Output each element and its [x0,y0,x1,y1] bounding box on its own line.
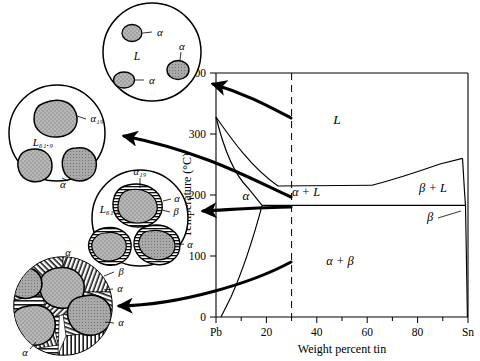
region-label-alpha: α [243,188,251,203]
m3-alpha-core-1 [118,189,157,223]
region-label-beta-L: β + L [418,181,447,195]
liquidus-sn-side [372,158,463,185]
x-tick-label-sn: Sn [462,326,474,338]
y-tick-label-100: 100 [189,250,207,262]
m4-alpha-label-2: α [118,317,124,328]
m3-matrix-label: L₆₁.₉ [99,203,121,215]
m2-alpha-label: α [60,178,66,190]
arrow-to-m1 [213,84,291,118]
m3-alpha19-label: α₁₉ [134,166,147,177]
region-label-L: L [332,112,341,127]
m1-alpha-grain-1 [122,25,142,42]
m1-alpha-label-1: α [157,26,163,38]
microstructure-m2: α₁₉ α L₆₁.₉ [9,85,105,190]
x-tick-label-60: 60 [361,326,373,338]
m1-alpha-grain-3 [114,72,135,88]
microstructure-m3: α₁₉ α β α L₆₁.₉ [89,166,194,266]
x-tick-label-pb: Pb [210,326,222,338]
m4-beta-label: β [117,266,124,277]
m4-leader-beta [104,272,114,276]
x-axis-ticks [216,317,468,323]
solidus-sn-side [463,158,466,205]
m1-matrix-label: L [133,50,140,62]
region-label-alpha-beta: α + β [326,254,354,268]
region-label-alpha-L: α + L [292,185,320,199]
m4-alpha-grain-2 [68,295,112,335]
liquidus-pb-side [216,117,372,186]
m1-alpha-label-3: α [149,74,155,86]
x-tick-label-20: 20 [261,326,273,338]
m4-alpha-grain-4 [6,267,42,298]
solvus-sn-side [466,205,468,317]
m4-alpha-label-1: α [117,283,123,294]
y-tick-label-300: 300 [189,128,207,140]
figure-root: 400 300 200 100 0 Pb 20 40 60 80 Sn Weig… [0,0,480,361]
m3-alpha-label-2: α [187,239,193,250]
m4-alpha-label-4: α [65,247,71,258]
region-label-beta: β [426,210,434,224]
m2-alpha-grain-3 [18,149,52,182]
m3-alpha-label-1: α [174,193,180,204]
m2-alpha-grain-2 [62,148,96,181]
y-axis-ticks [210,73,216,317]
m1-alpha-label-2: α [179,40,185,52]
m3-alpha-core-3 [92,232,126,261]
m2-alpha19-label: α₁₉ [91,113,104,124]
m3-beta-label: β [172,206,179,217]
x-tick-label-40: 40 [311,326,323,338]
m4-alpha-label-3: α [22,347,28,358]
m2-matrix-label: L₆₁.₉ [32,136,54,148]
m2-alpha-grain-1 [34,100,77,137]
y-tick-label-0: 0 [200,311,206,323]
x-tick-label-80: 80 [412,326,424,338]
m1-alpha-grain-2 [167,61,189,80]
microstructure-m1: L α α α [103,3,201,101]
beta-leader-line [438,211,461,218]
solvus-pb-side [221,205,262,317]
solidus-pb-side [216,117,262,205]
arrow-to-m4 [119,262,291,306]
phase-diagram-figure: 400 300 200 100 0 Pb 20 40 60 80 Sn Weig… [0,0,480,361]
x-axis-title: Weight percent tin [298,342,386,356]
m4-alpha-grain-3 [12,305,56,345]
